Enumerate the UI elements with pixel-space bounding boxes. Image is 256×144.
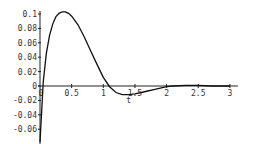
x-tick-label: 0.5	[64, 89, 79, 98]
axes	[38, 11, 238, 144]
y-tick-label: 0.04	[18, 53, 37, 62]
y-tick-label: 0.02	[18, 68, 37, 77]
y-tick-label: 0	[32, 82, 37, 91]
x-tick-label: 3	[227, 89, 232, 98]
data-curve	[40, 12, 230, 142]
y-tick-label: 0.1	[23, 10, 38, 19]
tick-labels: 00.511.522.530.10.080.060.040.020-0.02-0…	[13, 10, 233, 134]
line-chart: 00.511.522.530.10.080.060.040.020-0.02-0…	[0, 0, 256, 144]
y-tick-label: -0.04	[13, 111, 37, 120]
x-tick-label: 1	[101, 89, 106, 98]
x-axis-label: t	[126, 96, 131, 105]
y-tick-label: 0.08	[18, 24, 37, 33]
x-tick-label: 2.5	[191, 89, 206, 98]
x-tick-label: 2	[164, 89, 169, 98]
y-tick-label: 0.06	[18, 39, 37, 48]
y-tick-label: -0.06	[13, 125, 37, 134]
y-tick-label: -0.02	[13, 96, 37, 105]
